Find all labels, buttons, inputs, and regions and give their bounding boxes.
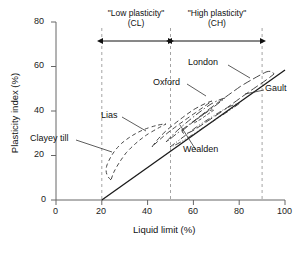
london-label: London	[188, 57, 218, 67]
y-axis-ticks	[51, 22, 56, 200]
clayey-till-label: Clayey till	[30, 133, 69, 143]
y-tick-60: 60	[34, 60, 44, 70]
plasticity-boundary-lines	[102, 28, 262, 200]
x-tick-60: 60	[188, 206, 198, 216]
x-axis-title: Liquid limit (%)	[133, 224, 195, 235]
x-tick-40: 40	[142, 206, 152, 216]
plasticity-chart: 0 20 40 60 80 0 20 40 60 80 100 Liquid l…	[0, 0, 308, 255]
x-tick-100: 100	[277, 206, 292, 216]
oxford-label: Oxford	[153, 77, 180, 87]
x-tick-20: 20	[96, 206, 106, 216]
x-tick-0: 0	[53, 206, 58, 216]
low-plasticity-label: "Low plasticity" (CL)	[96, 8, 176, 28]
chart-canvas	[0, 0, 308, 255]
wealden-label: Wealden	[183, 144, 218, 154]
x-tick-80: 80	[234, 206, 244, 216]
high-plasticity-line2: (CH)	[208, 18, 226, 28]
curve-gault	[193, 110, 214, 123]
y-tick-20: 20	[34, 149, 44, 159]
y-axis-title-wrap: Plasticity index (%)	[4, 63, 22, 163]
high-plasticity-label: "High plasticity" (CH)	[175, 8, 259, 28]
curve-london	[182, 71, 274, 133]
a-line	[102, 70, 285, 200]
y-tick-0: 0	[41, 194, 46, 204]
lias-label: Lias	[101, 110, 118, 120]
x-axis-ticks	[56, 200, 285, 205]
gault-label: Gault	[265, 83, 287, 93]
high-plasticity-line1: "High plasticity"	[188, 8, 246, 18]
curve-clayey-till	[106, 124, 166, 180]
y-axis-title: Plasticity index (%)	[9, 73, 20, 153]
y-tick-40: 40	[34, 105, 44, 115]
low-plasticity-line1: "Low plasticity"	[108, 8, 165, 18]
low-plasticity-line2: (CL)	[128, 18, 145, 28]
y-tick-80: 80	[34, 16, 44, 26]
